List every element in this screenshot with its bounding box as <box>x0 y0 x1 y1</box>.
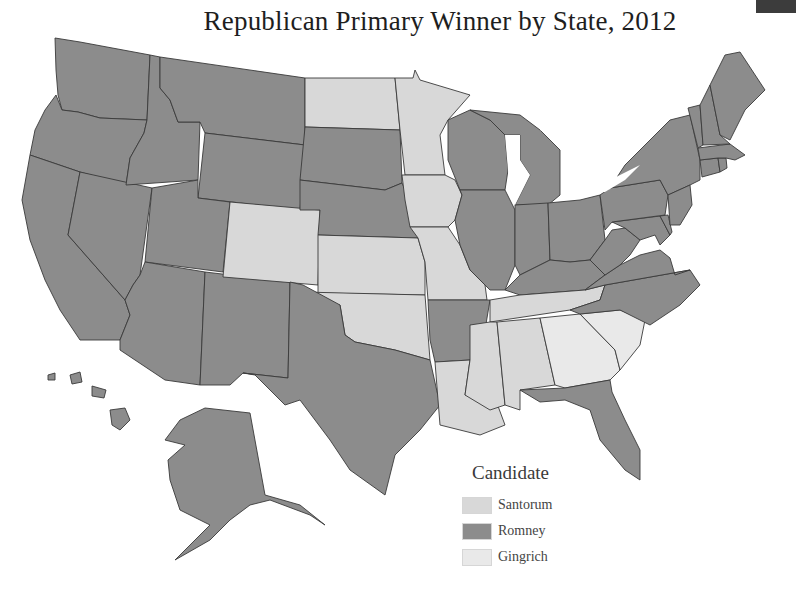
legend-item-santorum: Santorum <box>462 494 552 516</box>
state-wy <box>198 133 305 210</box>
legend-label-gingrich: Gingrich <box>498 549 548 565</box>
legend-swatch-santorum <box>462 497 492 514</box>
state-ct <box>700 158 720 177</box>
state-nm <box>200 272 290 385</box>
state-me <box>710 52 765 140</box>
state-co <box>223 202 320 285</box>
state-ma <box>698 144 745 160</box>
legend-label-romney: Romney <box>498 523 545 539</box>
state-nd <box>305 78 400 130</box>
us-map <box>0 0 796 592</box>
state-ia <box>402 175 462 227</box>
legend: Candidate Santorum Romney Gingrich <box>462 462 552 572</box>
state-ks <box>318 235 425 295</box>
legend-title: Candidate <box>472 462 552 484</box>
legend-label-santorum: Santorum <box>498 497 552 513</box>
legend-swatch-romney <box>462 523 492 540</box>
legend-item-gingrich: Gingrich <box>462 546 552 568</box>
state-ri <box>718 158 727 172</box>
state-wa <box>55 38 150 120</box>
legend-item-romney: Romney <box>462 520 552 542</box>
state-hi <box>48 372 130 430</box>
state-ak <box>165 408 325 560</box>
legend-swatch-gingrich <box>462 549 492 566</box>
state-sd <box>300 127 402 190</box>
